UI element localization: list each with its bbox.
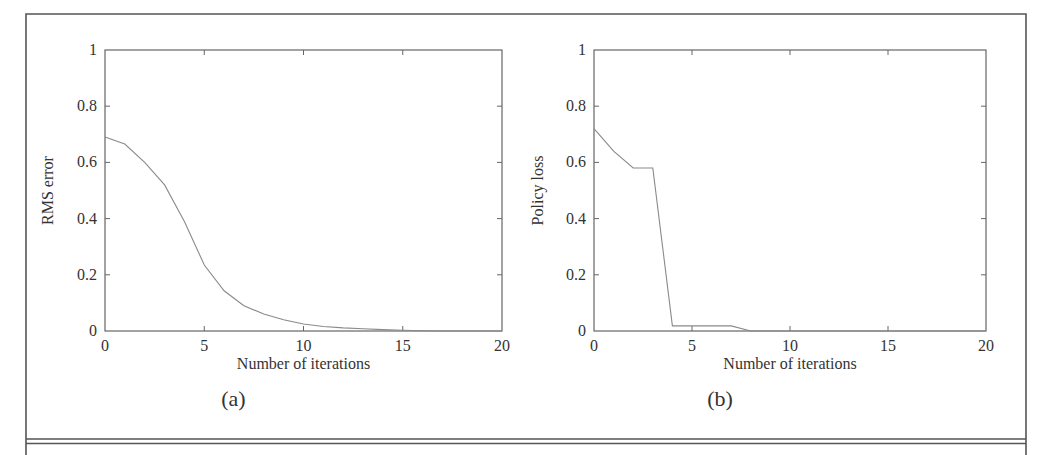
x-tick-label: 15 [395, 337, 411, 354]
plot-area [594, 50, 986, 331]
chart-panel-b: 0510152000.20.40.60.81 Number of iterati… [529, 41, 994, 411]
x-tick-label: 20 [978, 337, 994, 354]
chart-panel-a: 0510152000.20.40.60.81 Number of iterati… [39, 41, 510, 411]
y-axis-title: RMS error [39, 155, 56, 225]
y-tick-label: 0.8 [77, 97, 97, 114]
plot-area [105, 50, 502, 331]
y-tick-label: 0.8 [566, 97, 586, 114]
y-tick-label: 0.6 [566, 153, 586, 170]
x-tick-label: 5 [200, 337, 208, 354]
y-tick-label: 0.4 [77, 210, 97, 227]
figure-frame [26, 14, 1026, 455]
y-axis-title: Policy loss [529, 156, 547, 226]
x-tick-label: 5 [688, 337, 696, 354]
panel-label: (a) [221, 386, 245, 411]
series-line [594, 129, 986, 331]
y-tick-label: 1 [89, 41, 97, 58]
y-tick-label: 0.6 [77, 153, 97, 170]
y-tick-label: 1 [578, 41, 586, 58]
x-tick-label: 10 [296, 337, 312, 354]
y-tick-label: 0 [578, 322, 586, 339]
x-tick-label: 0 [101, 337, 109, 354]
x-tick-label: 0 [590, 337, 598, 354]
panel-label: (b) [707, 386, 733, 411]
figure: 0510152000.20.40.60.81 Number of iterati… [0, 0, 1042, 455]
y-tick-label: 0 [89, 322, 97, 339]
y-tick-label: 0.4 [566, 210, 586, 227]
y-tick-label: 0.2 [566, 266, 586, 283]
x-tick-label: 15 [880, 337, 896, 354]
y-tick-label: 0.2 [77, 266, 97, 283]
series-line [105, 137, 502, 331]
x-axis-title: Number of iterations [723, 355, 856, 372]
x-tick-label: 10 [782, 337, 798, 354]
x-axis-title: Number of iterations [237, 355, 370, 372]
x-tick-label: 20 [494, 337, 510, 354]
